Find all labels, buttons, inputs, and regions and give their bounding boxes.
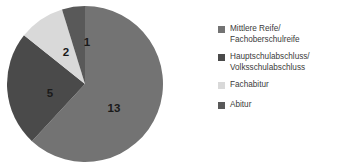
legend-swatch-icon (218, 54, 225, 61)
pie-chart-figure: 13 5 2 1 Mittlere Reife/ Fachoberschulre… (0, 0, 340, 168)
legend-swatch-icon (218, 102, 225, 109)
pie-label-2: 2 (63, 46, 69, 58)
pie-svg: 13 5 2 1 (6, 5, 166, 164)
pie-chart-plot-area: 13 5 2 1 (6, 5, 166, 164)
pie-label-5: 5 (47, 87, 54, 99)
legend-item-label: Fachabitur (230, 80, 269, 91)
legend-item-label: Hauptschulabschluss/ Volksschulabschluss (230, 52, 310, 73)
legend-item-fachabitur[interactable]: Fachabitur (218, 80, 338, 91)
legend-swatch-icon (218, 26, 225, 33)
pie-slices (7, 6, 163, 162)
legend-item-label: Mittlere Reife/ Fachoberschulreife (230, 24, 300, 45)
pie-label-13: 13 (108, 102, 121, 114)
legend-item-hauptschulabschluss[interactable]: Hauptschulabschluss/ Volksschulabschluss (218, 52, 338, 73)
chart-legend: Mittlere Reife/ Fachoberschulreife Haupt… (218, 24, 338, 118)
legend-item-abitur[interactable]: Abitur (218, 100, 338, 111)
legend-swatch-icon (218, 82, 225, 89)
pie-label-1: 1 (84, 36, 91, 48)
legend-item-mittlere-reife[interactable]: Mittlere Reife/ Fachoberschulreife (218, 24, 338, 45)
legend-item-label: Abitur (230, 100, 251, 111)
